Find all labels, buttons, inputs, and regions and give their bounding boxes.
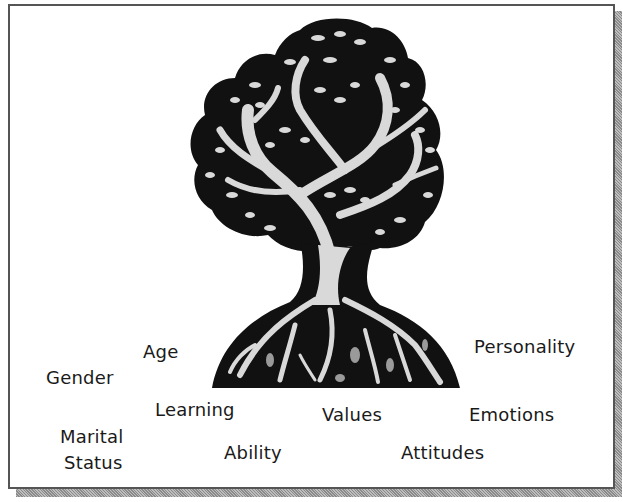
label-age: Age — [143, 341, 178, 363]
label-values: Values — [322, 404, 382, 426]
label-status: Status — [64, 452, 123, 474]
label-marital: Marital — [60, 426, 123, 448]
label-ability: Ability — [224, 442, 282, 464]
label-attitudes: Attitudes — [401, 442, 484, 464]
label-gender: Gender — [46, 367, 114, 389]
tree-trunk-and-roots — [212, 240, 460, 388]
label-personality: Personality — [474, 336, 575, 358]
label-learning: Learning — [155, 399, 235, 421]
label-emotions: Emotions — [469, 404, 554, 426]
